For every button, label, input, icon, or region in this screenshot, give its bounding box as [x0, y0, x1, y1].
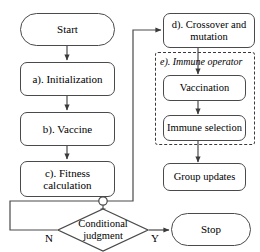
group-immune-operator-caption: e). Immune operator: [160, 56, 242, 67]
edge-loop-to-crossover: [107, 30, 161, 201]
node-vaccine[interactable]: b). Vaccine: [20, 112, 115, 146]
node-stop-label: Stop: [172, 223, 250, 235]
merge-junction-node: [99, 197, 107, 205]
node-group-updates-label: Group updates: [164, 171, 245, 183]
conditional-judgment-shape: [57, 208, 149, 252]
flowchart-canvas: Start a). Initialization b). Vaccine c).…: [0, 0, 260, 252]
node-stop[interactable]: Stop: [171, 213, 251, 246]
node-crossover-and-mutation-label: d). Crossover and mutation: [164, 19, 254, 43]
node-crossover-and-mutation[interactable]: d). Crossover and mutation: [163, 13, 255, 48]
node-immune-selection[interactable]: Immune selection: [163, 115, 246, 141]
node-conditional-judgment[interactable]: Conditional judgment: [57, 208, 149, 252]
node-initialization-label: a). Initialization: [21, 73, 114, 85]
node-vaccination-label: Vaccination: [164, 82, 245, 94]
node-initialization[interactable]: a). Initialization: [20, 62, 115, 96]
node-start-label: Start: [21, 23, 114, 35]
node-vaccine-label: b). Vaccine: [21, 123, 114, 135]
node-start[interactable]: Start: [20, 13, 115, 46]
edge-label-yes: Y: [151, 232, 159, 244]
edge-label-no: N: [45, 232, 53, 244]
node-fitness-calculation-label: c). Fitness calculation: [21, 167, 114, 192]
node-fitness-calculation[interactable]: c). Fitness calculation: [20, 161, 115, 197]
node-group-updates[interactable]: Group updates: [163, 163, 246, 191]
node-vaccination[interactable]: Vaccination: [163, 75, 246, 101]
node-immune-selection-label: Immune selection: [164, 122, 245, 134]
